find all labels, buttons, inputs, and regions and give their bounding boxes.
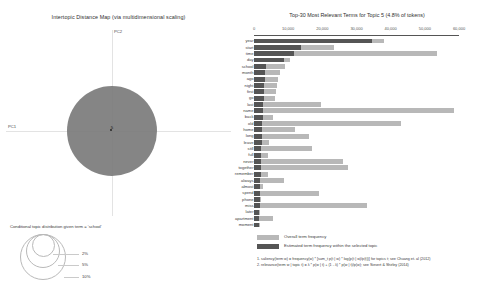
bar-term-label[interactable]: home [214,127,254,132]
bar-term-label[interactable]: month [214,70,254,75]
bar-topic-frequency [254,102,263,107]
footnote-relevance: 2. relevance(term w | topic t) = λ * p(w… [257,262,477,268]
bar-topic-frequency [254,172,261,177]
barchart-axis-rule [254,35,459,36]
bar-topic-frequency [254,108,263,113]
bar-topic-frequency [254,83,264,88]
bar-topic-frequency [254,140,262,145]
bar-term-label[interactable]: long [214,133,254,138]
bar-topic-frequency [254,216,259,221]
bar-term-label[interactable]: always [214,178,254,183]
bar-topic-frequency [254,77,265,82]
bar-topic-frequency [254,127,262,132]
bar-term-label[interactable]: apartment [214,216,254,221]
bar-overall-frequency [254,191,319,196]
bar-topic-frequency [254,210,259,215]
size-legend-tick-2 [53,254,79,255]
bar-topic-frequency [254,45,301,50]
bar-term-label[interactable]: back [214,114,254,119]
bar-topic-frequency [254,39,372,44]
bar-topic-frequency [254,197,260,202]
bar-topic-frequency [254,134,262,139]
bar-topic-frequency [254,121,262,126]
bar-topic-frequency [254,89,264,94]
topic-bubble-5[interactable] [67,86,157,176]
axis-label-pc2: PC2 [114,29,122,34]
bar-term-label[interactable]: almost [214,184,254,189]
size-legend-circle-2 [32,234,55,257]
term-barchart-panel: Top-30 Most Relevant Terms for Topic 5 (… [237,0,477,288]
barchart-title: Top-30 Most Relevant Terms for Topic 5 (… [237,12,477,18]
bar-term-label[interactable]: time [214,51,254,56]
bar-topic-frequency [254,223,259,228]
bar-topic-frequency [254,70,265,75]
bar-topic-frequency [254,159,261,164]
bar-topic-frequency [254,115,263,120]
axis-tick-label: 30,000 [350,26,362,31]
bar-overall-frequency [254,108,454,113]
size-legend-label-2: 2% [82,251,88,256]
bar-term-label[interactable]: later [214,209,254,214]
axis-tick-label: 10,000 [282,26,294,31]
pyldavis-visualization: Intertopic Distance Map (via multidimens… [0,0,477,288]
bar-term-label[interactable]: moment [214,222,254,227]
bar-overall-frequency [254,134,309,139]
bar-topic-frequency [254,203,260,208]
barchart-bars: yearstarttimedayschoolmonthagonightfirst… [237,38,477,230]
bar-term-label[interactable]: school [214,64,254,69]
bar-term-label[interactable]: still [214,146,254,151]
barchart-footnotes: 1. saliency(term w) = frequency(w) * [su… [257,256,477,268]
bar-topic-frequency [254,153,261,158]
bar-topic-frequency [254,146,261,151]
size-legend-label-5: 5% [82,262,88,267]
bar-term-label[interactable]: go [214,95,254,100]
bar-term-label[interactable]: full [214,152,254,157]
legend-row-overall: Overall term frequency [257,234,477,243]
bar-overall-frequency [254,203,367,208]
bar-term-label[interactable]: miss [214,203,254,208]
axis-tick-label: 60,000 [453,26,465,31]
axis-label-pc1: PC1 [8,124,16,129]
legend-swatch-topic [257,244,279,249]
axis-tick-label: 0 [253,26,255,31]
bar-topic-frequency [254,64,266,69]
bar-topic-frequency [254,96,264,101]
bar-overall-frequency [254,159,343,164]
bar-term-label[interactable]: first [214,89,254,94]
axis-tick-label: 20,000 [316,26,328,31]
bar-term-label[interactable]: start [214,45,254,50]
bar-overall-frequency [254,146,312,151]
bar-term-label[interactable]: day [214,57,254,62]
bar-term-label[interactable]: old [214,121,254,126]
bar-term-label[interactable]: last [214,102,254,107]
bar-topic-frequency [254,58,284,63]
legend-row-topic: Estimated term frequency within the sele… [257,243,477,252]
bar-term-label[interactable]: night [214,83,254,88]
bar-term-label[interactable]: year [214,38,254,43]
bar-term-label[interactable]: name [214,108,254,113]
bar-term-label[interactable]: spend [214,190,254,195]
size-legend-tick-5 [58,265,79,266]
bar-term-label[interactable]: remember [214,171,254,176]
size-legend-tick-10 [64,277,79,278]
bar-term-label[interactable]: leave [214,140,254,145]
bar-term-label[interactable]: together [214,165,254,170]
legend-label-topic: Estimated term frequency within the sele… [284,243,377,248]
bubble-size-legend: Conditional topic distribution given ter… [4,224,154,286]
bar-term-label[interactable]: never [214,159,254,164]
axis-tick-label: 40,000 [385,26,397,31]
size-legend-label-10: 10% [82,274,90,279]
topic-bubble-label: 5 [106,125,118,130]
barchart-legend: Overall term frequency Estimated term fr… [257,234,477,252]
bar-term-label[interactable]: ago [214,76,254,81]
axis-tick-label: 50,000 [419,26,431,31]
bar-overall-frequency [254,121,401,126]
mds-scatter-plot[interactable]: PC2 PC1 5 [6,26,231,216]
legend-label-overall: Overall term frequency [284,234,326,239]
bar-overall-frequency [254,165,348,170]
mds-title: Intertopic Distance Map (via multidimens… [0,14,237,20]
legend-swatch-overall [257,235,279,240]
bar-row[interactable]: moment [237,222,477,228]
bar-topic-frequency [254,178,260,183]
bar-term-label[interactable]: phone [214,197,254,202]
